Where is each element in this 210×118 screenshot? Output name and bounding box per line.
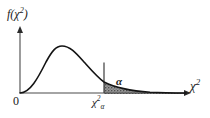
origin-tick-label: 0 <box>13 95 19 107</box>
critical-value-tick-label: χ2α <box>92 95 105 110</box>
x-axis-label: χ2 <box>190 78 200 92</box>
critical-value-subscript: α <box>101 102 105 111</box>
y-axis-label: f(χ2) <box>7 7 28 20</box>
density-curve <box>20 46 186 93</box>
alpha-area-label: α <box>116 76 122 87</box>
y-axis-label-close-paren: ) <box>24 7 28 21</box>
chi-square-distribution-figure: f(χ2) χ2 0 χ2α α <box>0 0 210 118</box>
y-axis-arrow-icon <box>17 26 23 33</box>
x-axis-label-superscript: 2 <box>196 77 200 87</box>
chart-plot-area <box>0 0 210 118</box>
